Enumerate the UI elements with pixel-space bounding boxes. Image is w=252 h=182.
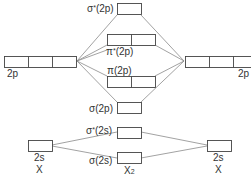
label-sigma-star-2s: σ*(2s): [86, 125, 112, 136]
label-molecule: X2: [124, 165, 135, 176]
pi-2p-boxes: [108, 77, 156, 88]
label-pi-2p: π(2p): [107, 65, 132, 76]
sigma-2p-box: [118, 103, 142, 114]
right-2p-orbital-boxes: [186, 57, 252, 68]
label-left-atom: X: [36, 164, 43, 175]
label-left-2p: 2p: [7, 68, 18, 79]
sigma-star-2p-box: [118, 4, 142, 15]
label-sigma-star-2p: σ*(2p): [87, 3, 114, 14]
sigma-2s-box: [118, 153, 142, 164]
pi-star-2p-boxes: [108, 35, 156, 46]
sigma-star-2s-box: [118, 128, 142, 139]
label-right-2p: 2p: [238, 68, 249, 79]
label-right-2s: 2s: [213, 152, 224, 163]
left-2p-orbital-boxes: [5, 57, 77, 68]
label-pi-star-2p: π*(2p): [106, 46, 133, 57]
right-2s-box: [208, 141, 232, 152]
left-2s-box: [29, 141, 53, 152]
label-right-atom: X: [215, 164, 222, 175]
label-sigma-2p: σ(2p): [89, 103, 113, 114]
label-sigma-2s: σ(2s): [89, 155, 112, 166]
label-left-2s: 2s: [34, 152, 45, 163]
